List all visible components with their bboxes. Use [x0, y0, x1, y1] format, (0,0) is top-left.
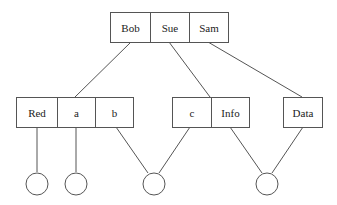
cell-info: Info [212, 98, 249, 127]
edge-b-to-leaf [116, 127, 148, 173]
right-child-node: Data [283, 97, 323, 128]
edge-c-to-leaf [159, 127, 190, 173]
left-child-node: Red a b [16, 97, 134, 128]
root-node: Bob Sue Sam [110, 12, 229, 43]
edge-sam-to-data-node [208, 42, 302, 97]
cell-data: Data [284, 98, 322, 127]
root-cell-sam: Sam [190, 13, 228, 42]
leaf-circle-3 [143, 173, 165, 195]
leaf-circle-4 [256, 173, 278, 195]
edge-sue-to-middle-node [169, 42, 210, 97]
cell-red: Red [17, 98, 58, 127]
edge-bob-to-left-node [75, 42, 131, 97]
cell-c: c [173, 98, 212, 127]
leaf-circle-1 [26, 173, 48, 195]
cell-a: a [58, 98, 96, 127]
root-cell-sue: Sue [151, 13, 190, 42]
cell-b: b [96, 98, 133, 127]
edge-info-to-leaf [230, 127, 262, 173]
middle-child-node: c Info [172, 97, 250, 128]
root-cell-bob: Bob [111, 13, 151, 42]
edge-data-to-leaf [272, 127, 303, 173]
leaf-circle-2 [65, 173, 87, 195]
